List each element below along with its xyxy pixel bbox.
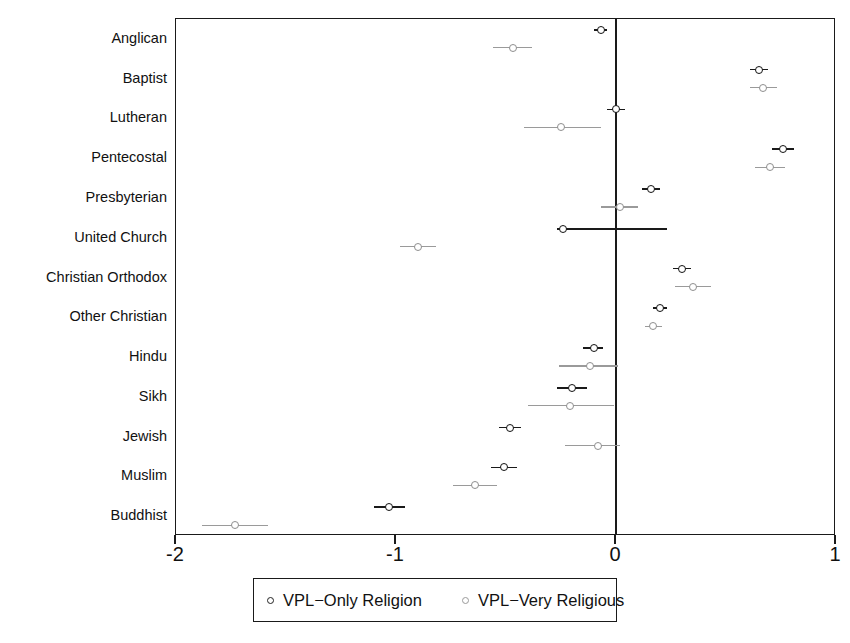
legend: VPL−Only Religion VPL−Very Religious — [253, 578, 617, 622]
point-estimate-marker[interactable] — [559, 225, 567, 233]
point-estimate-marker[interactable] — [656, 304, 664, 312]
x-axis-tick-label: 0 — [609, 544, 620, 564]
chart-root: AnglicanBaptistLutheranPentecostalPresby… — [0, 0, 850, 643]
point-estimate-marker[interactable] — [594, 442, 602, 450]
y-axis-category-labels: AnglicanBaptistLutheranPentecostalPresby… — [0, 18, 167, 535]
zero-reference-line — [615, 19, 617, 534]
point-estimate-marker[interactable] — [385, 503, 393, 511]
legend-label: VPL−Very Religious — [478, 592, 624, 609]
point-estimate-marker[interactable] — [471, 481, 479, 489]
point-estimate-marker[interactable] — [647, 185, 655, 193]
point-estimate-marker[interactable] — [779, 145, 787, 153]
point-estimate-marker[interactable] — [597, 26, 605, 34]
point-estimate-marker[interactable] — [649, 322, 657, 330]
legend-label: VPL−Only Religion — [283, 592, 422, 609]
y-axis-label: Muslim — [0, 468, 167, 483]
y-axis-label: Baptist — [0, 70, 167, 85]
point-estimate-marker[interactable] — [678, 265, 686, 273]
open-circle-light-icon — [462, 597, 469, 604]
y-axis-label: Sikh — [0, 389, 167, 404]
point-estimate-marker[interactable] — [566, 402, 574, 410]
open-circle-dark-icon — [267, 597, 274, 604]
point-estimate-marker[interactable] — [500, 463, 508, 471]
confidence-interval-bar — [565, 445, 620, 446]
point-estimate-marker[interactable] — [231, 521, 239, 529]
point-estimate-marker[interactable] — [766, 163, 774, 171]
y-axis-label: Christian Orthodox — [0, 269, 167, 284]
x-axis-tick-label: 1 — [829, 544, 840, 564]
y-axis-label: Other Christian — [0, 309, 167, 324]
point-estimate-marker[interactable] — [586, 362, 594, 370]
y-axis-label: Presbyterian — [0, 190, 167, 205]
y-axis-label: Hindu — [0, 349, 167, 364]
point-estimate-marker[interactable] — [414, 243, 422, 251]
y-axis-label: Lutheran — [0, 110, 167, 125]
y-axis-label: Anglican — [0, 31, 167, 46]
x-axis-tick-label: -2 — [166, 544, 184, 564]
point-estimate-marker[interactable] — [612, 105, 620, 113]
confidence-interval-bar — [557, 228, 667, 230]
point-estimate-marker[interactable] — [509, 44, 517, 52]
y-axis-label: Buddhist — [0, 508, 167, 523]
point-estimate-marker[interactable] — [506, 424, 514, 432]
point-estimate-marker[interactable] — [689, 283, 697, 291]
x-axis-tick-labels: -2-101 — [0, 544, 850, 570]
point-estimate-marker[interactable] — [557, 123, 565, 131]
point-estimate-marker[interactable] — [616, 203, 624, 211]
y-axis-label: Pentecostal — [0, 150, 167, 165]
point-estimate-marker[interactable] — [755, 66, 763, 74]
point-estimate-marker[interactable] — [568, 384, 576, 392]
y-axis-label: Jewish — [0, 428, 167, 443]
point-estimate-marker[interactable] — [590, 344, 598, 352]
legend-entry-very-religious[interactable]: VPL−Very Religious — [462, 592, 624, 609]
x-axis-tick-label: -1 — [386, 544, 404, 564]
plot-area — [175, 18, 835, 535]
y-axis-label: United Church — [0, 229, 167, 244]
point-estimate-marker[interactable] — [759, 84, 767, 92]
legend-entry-only-religion[interactable]: VPL−Only Religion — [267, 592, 422, 609]
